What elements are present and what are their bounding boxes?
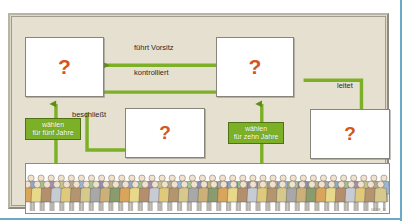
green-label-wahlen-zehn-jahre: wählen für zehn Jahre <box>228 122 284 144</box>
page-edge-accent-bottom <box>0 218 402 220</box>
question-mark: ? <box>126 123 204 142</box>
question-mark: ? <box>26 56 103 77</box>
question-box-middle[interactable]: ? <box>125 108 205 158</box>
question-mark: ? <box>311 124 389 143</box>
green-label-line2: für zehn Jahre <box>229 133 283 141</box>
connector-label-kontrolliert: kontrolliert <box>134 68 169 77</box>
watermark-code: 6028E_11 <box>371 208 386 212</box>
figure-root: ? ? ? ? führt Vorsitz kontrolliert leite… <box>0 0 402 221</box>
green-label-line2: für fünf Jahre <box>26 129 80 137</box>
question-box-bottom-right[interactable]: ? <box>310 109 390 159</box>
question-box-top-left[interactable]: ? <box>25 37 104 97</box>
connector-label-fuehrt-vorsitz: führt Vorsitz <box>134 43 174 52</box>
question-mark: ? <box>217 56 293 77</box>
diagram-canvas: ? ? ? ? führt Vorsitz kontrolliert leite… <box>11 16 386 206</box>
connector-label-leitet: leitet <box>337 81 353 90</box>
green-label-wahlen-fuenf-jahre: wählen für fünf Jahre <box>25 118 81 140</box>
crowd-panel: 6028E_11 <box>25 163 390 214</box>
crowd-illustration <box>26 164 389 213</box>
question-box-top-right[interactable]: ? <box>216 37 294 97</box>
